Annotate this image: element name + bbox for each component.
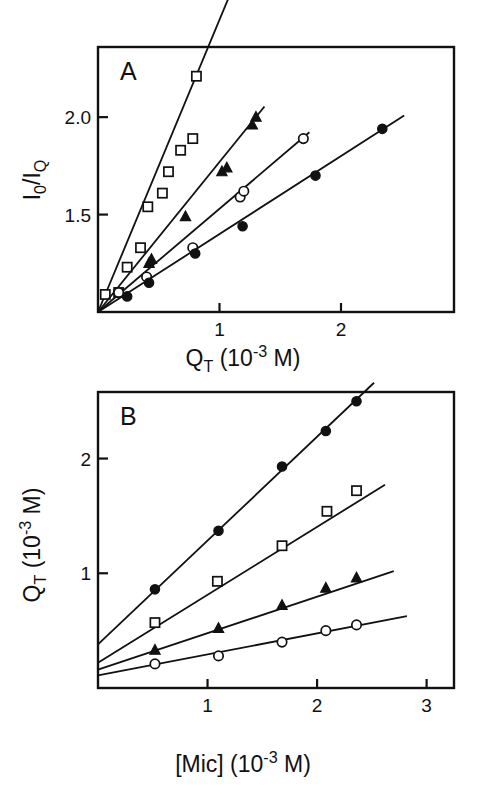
data-point — [351, 572, 361, 582]
data-point — [352, 620, 361, 629]
data-point — [180, 211, 190, 221]
x-tick-label-2: 2 — [312, 695, 323, 716]
x-tick-label-2: 2 — [336, 319, 347, 340]
data-point — [222, 162, 232, 172]
data-point — [311, 171, 320, 180]
panel-a: 121.52.0A — [65, 0, 454, 340]
data-point — [158, 189, 167, 198]
data-point — [214, 651, 223, 660]
y-tick-label-2: 2 — [80, 449, 91, 470]
data-point — [321, 583, 331, 593]
series-open-circle — [98, 616, 407, 675]
data-point — [150, 585, 159, 594]
data-point — [352, 397, 361, 406]
data-point — [188, 134, 197, 143]
data-point — [352, 486, 361, 495]
panel-a-y-axis-title: I0/IQ — [19, 160, 49, 201]
x-tick-label-3: 3 — [421, 695, 432, 716]
plot-frame — [98, 392, 454, 688]
data-point — [214, 526, 223, 535]
axis-titles: QT (10-3 M)I0/IQ[Mic] (10-3 M)QT (10-3 M… — [16, 160, 311, 777]
data-point — [150, 659, 159, 668]
y-tick-label-1: 1 — [80, 563, 91, 584]
panel-b: 12312B — [80, 383, 454, 716]
data-point — [277, 462, 286, 471]
data-point — [192, 72, 201, 81]
data-point — [143, 202, 152, 211]
data-point — [146, 254, 156, 264]
series-line-open-circle — [98, 132, 309, 312]
data-point — [321, 426, 330, 435]
series-filled-circle — [98, 383, 374, 645]
data-point — [299, 134, 308, 143]
series-open-square — [98, 485, 385, 663]
y-tick-label-1.5: 1.5 — [65, 205, 91, 226]
series-line-filled-triangle — [98, 571, 394, 670]
y-tick-label-2.0: 2.0 — [65, 107, 91, 128]
figure-svg: 121.52.0A12312BQT (10-3 M)I0/IQ[Mic] (10… — [0, 0, 487, 803]
data-point — [213, 577, 222, 586]
series-open-circle — [98, 132, 309, 312]
series-line-open-square — [98, 485, 385, 663]
series-filled-triangle — [98, 106, 264, 312]
panel-b-x-axis-title: [Mic] (10-3 M) — [175, 748, 311, 777]
panel-label-b: B — [120, 402, 137, 430]
x-tick-label-1: 1 — [202, 695, 213, 716]
data-point — [238, 222, 247, 231]
x-tick-label-1: 1 — [214, 319, 225, 340]
data-point — [277, 637, 286, 646]
data-point — [150, 618, 159, 627]
data-point — [144, 278, 153, 287]
data-point — [123, 263, 132, 272]
data-point — [176, 146, 185, 155]
series-line-filled-triangle — [98, 106, 264, 312]
data-point — [164, 167, 173, 176]
panel-a-x-axis-title: QT (10-3 M) — [186, 342, 301, 375]
series-line-filled-circle — [98, 383, 374, 645]
data-point — [277, 541, 286, 550]
figure-container: 121.52.0A12312BQT (10-3 M)I0/IQ[Mic] (10… — [0, 0, 487, 803]
series-filled-circle — [98, 116, 404, 312]
series-filled-triangle — [98, 571, 394, 670]
data-point — [123, 292, 132, 301]
data-point — [239, 186, 248, 195]
data-point — [136, 243, 145, 252]
data-point — [321, 626, 330, 635]
panel-b-y-axis-title: QT (10-3 M) — [16, 488, 49, 603]
data-point — [191, 249, 200, 258]
data-point — [277, 600, 287, 610]
data-point — [322, 507, 331, 516]
plot-frame — [98, 47, 454, 312]
data-point — [378, 124, 387, 133]
panel-label-a: A — [120, 57, 137, 85]
